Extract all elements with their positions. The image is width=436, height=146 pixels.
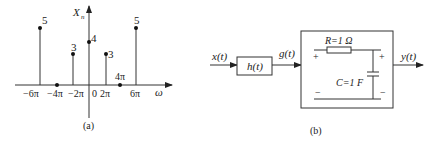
tick-label-neg6pi: −6π <box>23 88 39 99</box>
capacitor-label: C=1 F <box>336 77 364 88</box>
caption-a: (a) <box>83 120 94 132</box>
minus-right: − <box>380 87 386 98</box>
y-axis-subscript: n <box>81 13 85 21</box>
resistor-label: R=1 Ω <box>324 35 353 46</box>
origin-label: 0 <box>92 88 97 99</box>
tick-label-neg2pi: −2π <box>68 88 84 99</box>
minus-left: − <box>315 87 321 98</box>
tick-label-4pi: 4π <box>115 71 125 82</box>
block-label: h(t) <box>247 60 263 73</box>
figure-canvas: 5 3 4 3 5 X n ω −6π −4π −2π 0 2π 4π 6π (… <box>0 0 436 146</box>
value-label-2pi: 3 <box>108 48 114 60</box>
resistor <box>327 47 351 53</box>
spectrum-plot <box>15 6 172 118</box>
value-label-neg6pi: 5 <box>42 14 48 26</box>
tick-label-6pi: 6π <box>130 88 140 99</box>
input-label: x(t) <box>211 50 228 63</box>
value-label-6pi: 5 <box>134 14 140 26</box>
tick-label-neg4pi: −4π <box>47 88 63 99</box>
value-label-0: 4 <box>91 32 97 44</box>
x-axis-label: ω <box>155 86 163 98</box>
plus-right: + <box>379 51 385 62</box>
plus-left: + <box>313 51 319 62</box>
intermediate-label: g(t) <box>279 47 295 60</box>
marker-4pi <box>118 83 122 87</box>
caption-b: (b) <box>310 125 322 137</box>
marker-neg6pi <box>38 26 42 30</box>
y-axis-label: X <box>72 6 81 18</box>
tick-label-2pi: 2π <box>100 88 110 99</box>
marker-6pi <box>134 26 138 30</box>
output-label: y(t) <box>400 50 417 63</box>
marker-neg4pi <box>55 83 59 87</box>
value-label-neg2pi: 3 <box>71 41 77 53</box>
